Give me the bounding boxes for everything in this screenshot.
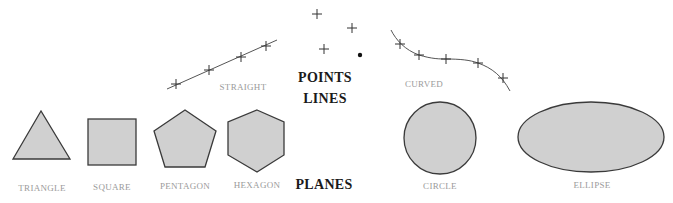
label-curved: CURVED: [405, 79, 443, 89]
geometry-diagram: POINTS LINES PLANES STRAIGHT CURVED TRIA…: [0, 0, 673, 203]
points-group: [312, 9, 362, 57]
label-square: SQUARE: [93, 182, 131, 192]
pentagon-shape: [154, 110, 216, 167]
point-cross-icon: [312, 9, 322, 19]
heading-points: POINTS: [298, 70, 352, 86]
square-shape: [88, 119, 136, 165]
circle-shape: [404, 102, 476, 174]
planes-group: [13, 102, 664, 174]
triangle-shape: [13, 111, 70, 159]
label-pentagon: PENTAGON: [160, 181, 210, 191]
point-cross-icon: [347, 23, 357, 33]
label-ellipse: ELLIPSE: [573, 180, 610, 190]
label-straight: STRAIGHT: [220, 82, 267, 92]
hexagon-shape: [228, 110, 284, 172]
label-triangle: TRIANGLE: [18, 183, 65, 193]
ellipse-shape: [518, 102, 664, 172]
heading-planes: PLANES: [295, 177, 352, 193]
heading-lines: LINES: [303, 91, 347, 107]
label-hexagon: HEXAGON: [234, 180, 281, 190]
label-circle: CIRCLE: [423, 181, 457, 191]
point-dot-icon: [358, 53, 362, 57]
point-cross-icon: [319, 44, 329, 54]
